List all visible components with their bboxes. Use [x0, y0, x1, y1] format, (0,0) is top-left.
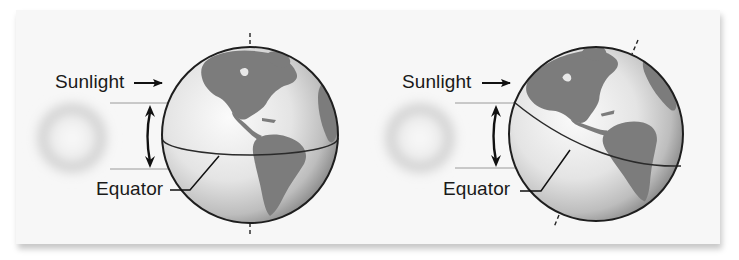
equator-label: Equator	[443, 179, 510, 198]
sun-icon	[30, 96, 114, 180]
sun-icon	[378, 96, 462, 180]
equator-label: Equator	[96, 179, 163, 198]
axis-top-icon	[632, 40, 638, 54]
globe-upright	[162, 47, 338, 223]
axis-bottom-icon	[554, 215, 559, 227]
diagram-canvas	[0, 0, 739, 260]
double-arrow-icon	[145, 105, 155, 168]
panel-upright-axis	[30, 33, 338, 236]
sunlight-label: Sunlight	[402, 72, 471, 91]
globe-tilted	[509, 23, 708, 228]
double-arrow-icon	[491, 105, 501, 167]
panel-tilted-axis	[378, 23, 708, 228]
sunlight-label: Sunlight	[55, 72, 124, 91]
